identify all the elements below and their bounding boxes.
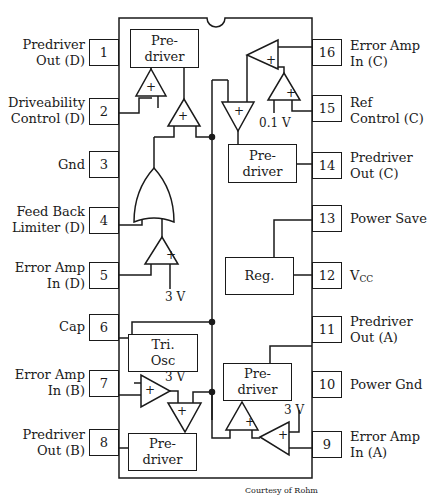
pin-8: 8	[89, 429, 119, 456]
pin-14: 14	[312, 152, 342, 179]
voltage-label-3v-a: 3 V	[284, 403, 304, 417]
pin-1: 1	[89, 39, 119, 66]
credit-text: Courtesy of Rohm	[245, 486, 318, 495]
plus-sign: +	[145, 383, 155, 397]
label-pin-12: VCC	[350, 268, 373, 287]
plus-sign: +	[266, 53, 276, 67]
label-pin-6: Cap	[59, 319, 85, 335]
voltage-label-3v-b: 3 V	[165, 370, 185, 384]
plus-sign: +	[245, 415, 255, 429]
pin-15: 15	[312, 95, 342, 122]
pin-10: 10	[312, 371, 342, 398]
label-pin-7: Error Amp In (B)	[15, 367, 85, 399]
pin-11: 11	[312, 316, 342, 343]
pin-3: 3	[89, 151, 119, 178]
predriver-d-block: Pre- driver	[130, 29, 199, 68]
predriver-b-block: Pre- driver	[128, 433, 197, 471]
label-pin-10: Power Gnd	[350, 377, 422, 393]
label-pin-3: Gnd	[58, 157, 85, 173]
label-pin-2: Driveability Control (D)	[8, 95, 85, 127]
pin-6: 6	[89, 314, 119, 341]
pin-12: 12	[312, 262, 342, 289]
label-pin-8: Predriver Out (B)	[22, 427, 85, 459]
pin-16: 16	[312, 39, 342, 66]
or-gate	[134, 168, 174, 222]
predriver-a-block: Pre- driver	[223, 363, 292, 401]
label-pin-9: Error Amp In (A)	[350, 429, 420, 461]
label-pin-16: Error Amp In (C)	[350, 38, 420, 70]
label-pin-15: Ref Control (C)	[350, 95, 424, 127]
pin-5: 5	[89, 262, 119, 289]
pin-9: 9	[312, 431, 342, 458]
plus-sign: +	[166, 248, 176, 262]
tri-osc-block: Tri. Osc	[128, 334, 198, 372]
pin-4: 4	[89, 207, 119, 234]
predriver-c-block: Pre- driver	[228, 144, 297, 183]
label-pin-14: Predriver Out (C)	[350, 150, 413, 182]
voltage-label-0.1v: 0.1 V	[259, 116, 291, 130]
plus-sign: +	[178, 109, 188, 123]
label-pin-1: Predriver Out (D)	[22, 37, 85, 69]
pin-13: 13	[312, 205, 342, 232]
plus-sign: +	[278, 428, 288, 442]
plus-sign: +	[286, 86, 296, 100]
pin-7: 7	[89, 370, 119, 397]
label-pin-4: Feed Back Limiter (D)	[12, 204, 85, 236]
voltage-label-3v-d: 3 V	[165, 290, 185, 304]
label-pin-11: Predriver Out (A)	[350, 314, 413, 346]
regulator-block: Reg.	[225, 257, 294, 295]
label-pin-13: Power Save	[350, 211, 427, 227]
pin-2: 2	[89, 98, 119, 125]
plus-sign: +	[234, 104, 244, 118]
plus-sign: +	[146, 80, 156, 94]
label-pin-5: Error Amp In (D)	[15, 260, 85, 292]
plus-sign: +	[177, 404, 187, 418]
